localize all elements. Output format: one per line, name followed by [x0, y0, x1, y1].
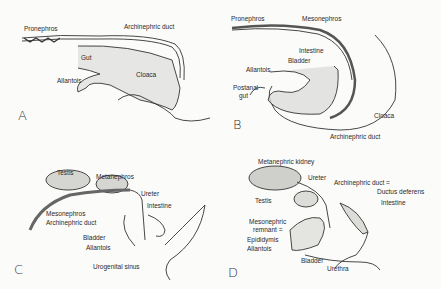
label-d-allantois: Allantois: [247, 246, 272, 253]
label-a-cloaca: Cloaca: [136, 72, 156, 79]
label-a-pronephros: Pronephros: [24, 26, 58, 33]
label-d-bladder: Bladder: [301, 258, 323, 265]
diagram-drawings: [0, 0, 441, 289]
label-d-ureter: Ureter: [308, 175, 326, 182]
label-c-urogenital-sinus: Urogenital sinus: [93, 264, 140, 271]
label-d-mesonephric: Mesonephric: [249, 219, 286, 226]
label-a-allantois: Allantois: [57, 78, 82, 85]
label-d-metanephric-kidney: Metanephric kidney: [258, 159, 314, 166]
label-b-mesonephros: Mesonephros: [302, 16, 341, 23]
label-b-archinephric-duct: Archinephric duct: [330, 134, 380, 141]
label-d-urethra: Urethra: [327, 266, 349, 273]
label-c-intestine: Intestine: [147, 203, 172, 210]
panel-letter-b: B: [233, 117, 242, 132]
label-d-remnant: remnant =: [253, 227, 282, 234]
label-b-pronephros: Pronephros: [231, 16, 265, 23]
label-c-testis: Testis: [57, 170, 74, 177]
label-c-mesonephros: Mesonephros: [46, 211, 85, 218]
label-c-bladder: Bladder: [83, 235, 105, 242]
label-b-intestine: Intestine: [299, 48, 324, 55]
label-d-testis: Testis: [255, 198, 272, 205]
panel-b-drawing: [232, 25, 396, 130]
panel-letter-c: C: [14, 262, 23, 277]
panel-letter-d: D: [228, 265, 238, 280]
label-c-metanephros: Metanephros: [96, 174, 134, 181]
label-c-archinephric-duct: Archinephric duct: [46, 220, 96, 227]
label-b-gut: gut: [239, 93, 248, 100]
label-a-archinephric-duct: Archinephric duct: [124, 24, 174, 31]
label-b-bladder: Bladder: [288, 58, 310, 65]
label-d-epididymis: Epididymis: [247, 237, 278, 244]
embryo-urogenital-diagram: Pronephros Archinephric duct Gut Allanto…: [0, 0, 441, 289]
panel-a-drawing: [22, 35, 210, 121]
label-a-gut: Gut: [81, 55, 91, 62]
label-d-archinephric-duct: Archinephric duct =: [334, 180, 390, 187]
label-d-intestine: Intestine: [381, 200, 406, 207]
label-d-ductus-deferens: Ductus deferens: [377, 189, 424, 196]
label-b-postanal: Postanal: [233, 85, 258, 92]
panel-letter-a: A: [18, 108, 27, 123]
label-c-ureter: Ureter: [141, 191, 159, 198]
label-c-allantois: Allantois: [86, 245, 111, 252]
label-b-allantois: Allantois: [246, 67, 271, 74]
label-b-cloaca: Cloaca: [374, 113, 394, 120]
